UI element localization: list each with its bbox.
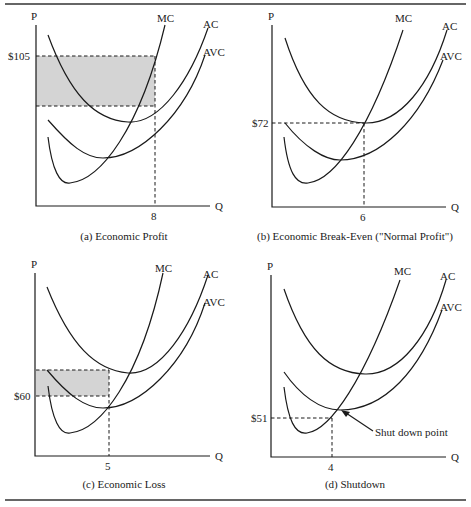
arrowhead-icon bbox=[341, 410, 350, 417]
ac-curve bbox=[285, 30, 447, 123]
caption: (c) Economic Loss bbox=[82, 478, 165, 491]
avc-curve bbox=[284, 310, 442, 410]
mc-label: MC bbox=[155, 262, 172, 274]
panel-d-shutdown: Shut down point P Q MC AC AVC $51 4 (d) … bbox=[251, 260, 462, 491]
y-axis-label: P bbox=[31, 10, 37, 22]
mc-label: MC bbox=[157, 12, 174, 24]
ac-label: AC bbox=[440, 270, 455, 282]
mc-label: MC bbox=[395, 12, 412, 24]
mc-curve bbox=[48, 273, 163, 433]
mc-label: MC bbox=[394, 265, 411, 277]
avc-label: AVC bbox=[440, 50, 462, 62]
quantity-tick: 4 bbox=[328, 461, 334, 473]
caption: (d) Shutdown bbox=[325, 478, 386, 491]
y-axis-label: P bbox=[267, 260, 273, 272]
x-axis-label: Q bbox=[451, 451, 459, 463]
quantity-tick: 8 bbox=[151, 210, 157, 222]
price-tick: $72 bbox=[252, 117, 269, 129]
loss-shaded-area bbox=[36, 370, 109, 396]
quantity-tick: 6 bbox=[360, 211, 366, 223]
shutdown-arrow bbox=[346, 413, 373, 431]
panel-b-break-even: P Q MC AC AVC $72 6 (b) Economic Break-E… bbox=[252, 10, 462, 243]
y-axis-label: P bbox=[31, 258, 37, 270]
axes bbox=[36, 25, 210, 206]
avc-label: AVC bbox=[203, 46, 225, 58]
panel-a-economic-profit: P Q MC AC AVC $105 8 (a) Economic Profit bbox=[8, 10, 225, 243]
price-tick: $51 bbox=[251, 412, 268, 424]
avc-label: AVC bbox=[203, 296, 225, 308]
x-axis-label: Q bbox=[215, 450, 223, 462]
ac-curve bbox=[47, 275, 208, 373]
ac-curve bbox=[284, 280, 446, 374]
quantity-tick: 5 bbox=[105, 460, 111, 472]
caption: (b) Economic Break-Even ("Normal Profit"… bbox=[257, 230, 453, 243]
ac-label: AC bbox=[203, 268, 218, 280]
x-axis-label: Q bbox=[451, 201, 459, 213]
axes bbox=[35, 273, 210, 456]
price-tick: $105 bbox=[8, 50, 31, 62]
caption: (a) Economic Profit bbox=[80, 230, 167, 243]
y-axis-label: P bbox=[268, 10, 274, 22]
ac-label: AC bbox=[203, 18, 218, 30]
cost-curves-figure: P Q MC AC AVC $105 8 (a) Economic Profit… bbox=[0, 0, 471, 507]
avc-curve bbox=[285, 60, 443, 160]
panel-c-economic-loss: P Q MC AC AVC $60 5 (c) Economic Loss bbox=[14, 258, 225, 491]
price-tick: $60 bbox=[14, 390, 31, 402]
avc-label: AVC bbox=[440, 301, 462, 313]
x-axis-label: Q bbox=[215, 200, 223, 212]
profit-shaded-area bbox=[36, 56, 155, 106]
ac-label: AC bbox=[442, 20, 457, 32]
shutdown-point-label: Shut down point bbox=[375, 426, 448, 438]
